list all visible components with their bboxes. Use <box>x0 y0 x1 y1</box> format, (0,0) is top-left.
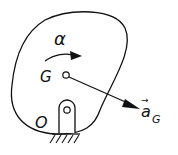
alpha-label: α <box>54 28 66 49</box>
ground-hatch <box>50 135 79 143</box>
center-of-mass-point <box>63 72 69 78</box>
acceleration-vector-line <box>69 77 130 104</box>
acceleration-subscript: G <box>152 113 161 126</box>
pivot-support <box>59 100 75 133</box>
o-label: O <box>35 113 48 132</box>
g-label: G <box>40 68 52 86</box>
rotation-arrowhead-icon <box>70 51 82 60</box>
pivot-pin <box>64 107 70 113</box>
rigid-body-diagram: α G O → a G <box>0 0 178 155</box>
rotation-arrow <box>45 54 72 61</box>
acceleration-arrowhead-icon <box>122 99 140 109</box>
acceleration-label: a <box>141 102 151 121</box>
